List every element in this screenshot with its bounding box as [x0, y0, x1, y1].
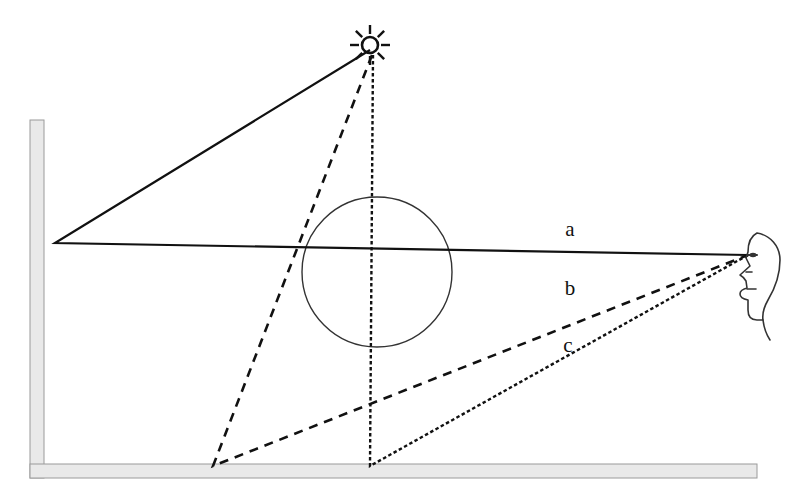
ray-path-b	[213, 55, 748, 466]
sun-icon	[350, 25, 390, 65]
surfaces-group	[30, 120, 757, 478]
ray-label-a: a	[565, 217, 575, 241]
transparent-sphere	[302, 197, 452, 347]
vertical-wall	[30, 120, 44, 478]
horizontal-floor	[30, 464, 757, 478]
ray-path-a	[55, 50, 748, 255]
ray-path-c	[370, 55, 748, 466]
figure-canvas: a b c	[0, 0, 807, 503]
head-profile-icon	[740, 233, 780, 340]
optics-diagram: a b c	[0, 0, 807, 503]
ray-label-c: c	[563, 333, 572, 357]
ray-label-b: b	[565, 276, 576, 300]
